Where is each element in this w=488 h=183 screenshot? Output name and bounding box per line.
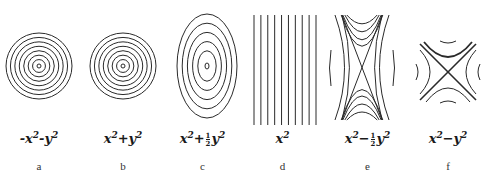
hyperbola-branch bbox=[393, 50, 395, 86]
hyperbola-branch bbox=[466, 50, 476, 94]
contour-ellipse bbox=[177, 14, 237, 118]
label-d: d bbox=[245, 160, 320, 172]
contour-ellipse bbox=[182, 23, 232, 109]
hyperbola-branch bbox=[343, 96, 381, 120]
fraction-half: 12 bbox=[206, 132, 211, 147]
contour-plot-d bbox=[245, 0, 320, 125]
hyperbola-branch bbox=[343, 15, 381, 40]
contour-ellipse bbox=[187, 32, 226, 99]
panel-e: x2−12y2 e bbox=[325, 0, 410, 183]
contour-circle bbox=[99, 42, 147, 90]
panel-c: x2+12y2 c bbox=[165, 0, 240, 183]
contour-circle bbox=[19, 46, 58, 85]
hyperbola-branch bbox=[440, 41, 456, 43]
contour-ellipse bbox=[205, 63, 209, 69]
formula-d: x2 bbox=[245, 130, 320, 146]
contour-plot-c bbox=[165, 0, 240, 125]
hyperbola-branch bbox=[420, 50, 430, 94]
label-c: c bbox=[165, 160, 240, 172]
hyperbola-branch bbox=[416, 64, 418, 80]
contour-ellipse bbox=[198, 51, 216, 81]
hyperbola-branch bbox=[335, 15, 345, 120]
contour-plot-a bbox=[0, 0, 78, 125]
contour-ellipse bbox=[193, 42, 222, 91]
panel-a: -x2-y2 a bbox=[0, 0, 78, 183]
hyperbola-branch bbox=[478, 64, 480, 80]
hyperbola-branch bbox=[330, 50, 332, 86]
hyperbola-branch bbox=[440, 101, 456, 103]
contour-circle bbox=[28, 55, 50, 77]
contour-circle bbox=[6, 33, 72, 99]
contour-circle bbox=[112, 55, 134, 77]
contour-circle bbox=[103, 46, 142, 85]
contour-plot-e bbox=[325, 0, 410, 125]
label-a: a bbox=[0, 160, 78, 172]
fraction-half: 12 bbox=[371, 132, 376, 147]
hyperbola-branch bbox=[347, 15, 377, 24]
panel-f: x2−y2 f bbox=[408, 0, 488, 183]
contour-circle bbox=[15, 42, 63, 90]
label-f: f bbox=[408, 160, 488, 172]
contour-plot-b bbox=[84, 0, 162, 125]
panel-b: x2+y2 b bbox=[84, 0, 162, 183]
contour-circle bbox=[121, 64, 125, 68]
formula-c: x2+12y2 bbox=[165, 130, 240, 147]
hyperbola-branch bbox=[380, 15, 390, 120]
formula-a: -x2-y2 bbox=[0, 130, 78, 146]
formula-b: x2+y2 bbox=[84, 130, 162, 146]
hyperbola-branch bbox=[426, 88, 470, 102]
contour-plot-f bbox=[408, 0, 488, 125]
contour-circle bbox=[117, 60, 130, 73]
formula-e: x2−12y2 bbox=[325, 130, 410, 147]
hyperbola-branch bbox=[347, 112, 377, 120]
panel-d: x2 d bbox=[245, 0, 320, 183]
label-e: e bbox=[325, 160, 410, 172]
label-b: b bbox=[84, 160, 162, 172]
contour-circle bbox=[37, 64, 41, 68]
formula-f: x2−y2 bbox=[408, 130, 488, 146]
contour-circle bbox=[90, 33, 156, 99]
contour-circle bbox=[33, 60, 46, 73]
